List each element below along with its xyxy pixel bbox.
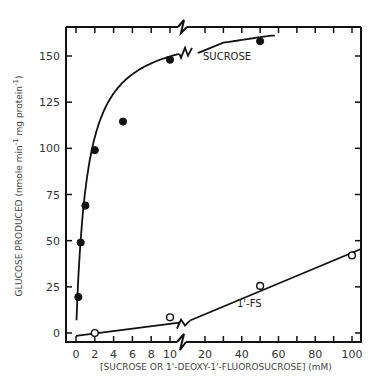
x-tick-label: 2 xyxy=(91,348,98,361)
x-tick-label: 6 xyxy=(129,348,136,361)
series-label-fs: 1'-FS xyxy=(237,298,262,309)
fs-fit-line-right xyxy=(190,249,361,321)
sucrose-data-point xyxy=(166,56,173,63)
x-tick-label: 0 xyxy=(73,348,80,361)
y-tick-label: 125 xyxy=(39,96,60,109)
x-tick-label: 8 xyxy=(148,348,155,361)
y-tick-label: 150 xyxy=(39,50,60,63)
y-tick-label: 100 xyxy=(39,142,60,155)
fs-data-point xyxy=(167,314,174,321)
sucrose-data-point xyxy=(82,202,89,209)
y-tick-label: 0 xyxy=(53,327,60,340)
fs-data-point xyxy=(91,330,98,337)
sucrose-data-point xyxy=(257,38,264,45)
fs-data-point xyxy=(257,283,264,290)
fit-curves xyxy=(76,36,361,336)
sucrose-curve-break xyxy=(179,48,192,58)
fs-data-point xyxy=(349,252,356,259)
x-tick-label: 20 xyxy=(198,348,212,361)
x-tick-label: 80 xyxy=(308,348,322,361)
chart: 0255075100125150024681020406080100 SUCRO… xyxy=(0,0,380,391)
y-tick-label: 75 xyxy=(46,189,60,202)
sucrose-data-point xyxy=(75,293,82,300)
x-tick-label: 4 xyxy=(110,348,117,361)
plot-frame xyxy=(66,20,361,350)
sucrose-data-point xyxy=(91,147,98,154)
series-label-sucrose: SUCROSE xyxy=(203,51,251,62)
sucrose-data-point xyxy=(119,118,126,125)
sucrose-fit-curve xyxy=(77,54,179,320)
y-tick-label: 50 xyxy=(46,235,60,248)
x-tick-label: 100 xyxy=(342,348,363,361)
fs-line-break xyxy=(177,320,190,329)
x-tick-label: 40 xyxy=(235,348,249,361)
x-tick-label: 10 xyxy=(163,348,177,361)
y-axis-title: GLUCOSE PRODUCED (nmole min-1 mg protein… xyxy=(12,76,24,297)
sucrose-data-point xyxy=(77,239,84,246)
y-tick-label: 25 xyxy=(46,281,60,294)
x-tick-label: 60 xyxy=(272,348,286,361)
data-points xyxy=(75,38,356,337)
x-axis-title: [SUCROSE OR 1'-DEOXY-1'-FLUOROSUCROSE] (… xyxy=(100,362,332,372)
axis-ticks xyxy=(66,27,361,342)
